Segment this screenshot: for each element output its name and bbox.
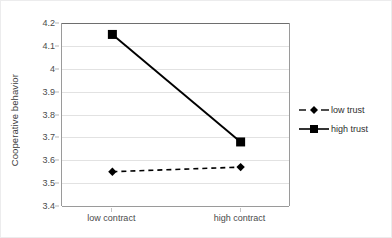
- dashed-diamond-marker-icon: [299, 103, 329, 117]
- plot-area: [61, 23, 290, 206]
- x-axis-tick-mark: [240, 208, 241, 212]
- x-axis-ticks: low contracthigh contract: [61, 208, 290, 228]
- chart-figure: Cooperative behavior 3.43.53.63.73.83.94…: [0, 0, 392, 238]
- y-axis-tick-label: 4.1: [42, 41, 55, 51]
- chart-legend: low trust high trust: [299, 100, 389, 138]
- x-axis-tick-mark: [111, 208, 112, 212]
- y-axis-tick-mark: [55, 137, 59, 138]
- data-point-marker[interactable]: [108, 30, 117, 39]
- y-axis-tick-mark: [55, 160, 59, 161]
- y-axis-tick-mark: [55, 91, 59, 92]
- gridline: [62, 206, 289, 207]
- y-axis-tick-label: 4.2: [42, 18, 55, 28]
- x-axis-tick-label: low contract: [87, 213, 135, 223]
- series-lines: [62, 23, 291, 206]
- legend-label-high-trust: high trust: [329, 124, 368, 134]
- data-point-marker[interactable]: [236, 137, 245, 146]
- solid-square-marker-icon: [299, 122, 329, 136]
- y-axis-tick-mark: [55, 23, 59, 24]
- y-axis-tick-label: 3.6: [42, 155, 55, 165]
- y-axis-tick-mark: [55, 206, 59, 207]
- series-line-low-trust: [112, 167, 240, 172]
- legend-label-low-trust: low trust: [329, 105, 365, 115]
- y-axis-tick-mark: [55, 68, 59, 69]
- y-axis-tick-mark: [55, 45, 59, 46]
- y-axis-title-text: Cooperative behavior: [9, 74, 20, 166]
- y-axis-tick-mark: [55, 183, 59, 184]
- y-axis-tick-label: 3.5: [42, 178, 55, 188]
- legend-item-high-trust[interactable]: high trust: [299, 119, 389, 138]
- y-axis-tick-label: 3.4: [42, 201, 55, 211]
- series-line-high-trust: [112, 34, 240, 142]
- legend-item-low-trust[interactable]: low trust: [299, 100, 389, 119]
- data-point-marker[interactable]: [108, 167, 116, 175]
- y-axis-ticks: 3.43.53.63.73.83.944.14.2: [27, 23, 59, 206]
- y-axis-title: Cooperative behavior: [1, 1, 27, 238]
- data-point-marker[interactable]: [236, 163, 244, 171]
- y-axis-tick-label: 3.8: [42, 110, 55, 120]
- x-axis-tick-label: high contract: [214, 213, 266, 223]
- y-axis-tick-mark: [55, 114, 59, 115]
- y-axis-tick-label: 3.9: [42, 87, 55, 97]
- y-axis-tick-label: 3.7: [42, 132, 55, 142]
